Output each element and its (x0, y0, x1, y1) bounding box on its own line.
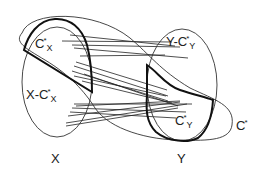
bipartite-cover-diagram (0, 0, 265, 172)
edge-line (66, 104, 187, 123)
label-cx: C*X (35, 37, 53, 53)
cx-region-bold (24, 19, 92, 92)
cstar-outline (19, 16, 232, 140)
label-set-y: Y (177, 152, 186, 165)
label-cstar: C* (236, 119, 248, 132)
label-x-minus-cx: X-C*X (26, 88, 57, 104)
label-cy: C*Y (175, 114, 193, 130)
label-y-minus-cy: Y-C*Y (166, 35, 195, 51)
edge-line (62, 41, 172, 42)
label-set-x: X (51, 152, 60, 165)
set-x-ellipse (22, 27, 92, 137)
